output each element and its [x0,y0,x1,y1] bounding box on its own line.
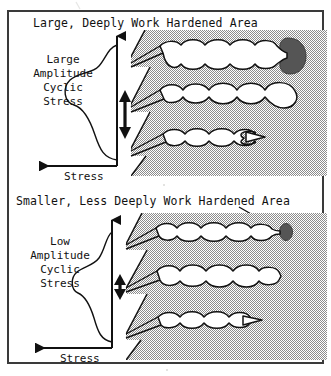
stress-label-line-2: Amplitude [30,249,90,262]
stress-axis: Stress [36,220,112,365]
fatigue-crack-diagram: Large, Deeply Work Hardened Area [0,0,331,376]
stress-label-line-4: Stress [40,277,80,290]
panel-title: Smaller, Less Deeply Work Hardened Area [16,194,290,208]
panel-large-amplitude: Large, Deeply Work Hardened Area [33,16,327,183]
stress-label-line-1: Large [46,53,79,66]
stress-label: Large Amplitude Cyclic Stress [33,53,93,108]
stress-label-line-3: Cyclic [40,263,80,276]
axis-label-stress: Stress [64,170,104,183]
stress-label-line-2: Amplitude [33,67,93,80]
stress-label: Low Amplitude Cyclic Stress [30,235,90,290]
work-hardened-zone-small [280,224,293,241]
panel-title: Large, Deeply Work Hardened Area [33,16,258,30]
axis-label-stress: Stress [60,352,100,365]
panel-low-amplitude: Smaller, Less Deeply Work Hardened Area [16,194,327,365]
stress-label-line-4: Stress [43,95,83,108]
amplitude-arrow-large [119,90,131,139]
amplitude-arrow-small [114,274,126,300]
stress-label-line-1: Low [50,235,70,248]
diagram-canvas: Large, Deeply Work Hardened Area [0,0,331,376]
stress-label-line-3: Cyclic [43,81,83,94]
